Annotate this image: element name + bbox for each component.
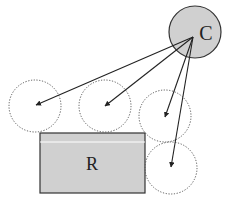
diagram: R C: [0, 0, 230, 206]
arrow: [36, 37, 193, 105]
arrow: [171, 37, 193, 167]
rectangle-r: R: [40, 133, 145, 193]
rect-label: R: [86, 154, 98, 174]
target-circle: [145, 142, 197, 194]
target-circle: [9, 80, 61, 132]
source-label: C: [199, 22, 212, 44]
